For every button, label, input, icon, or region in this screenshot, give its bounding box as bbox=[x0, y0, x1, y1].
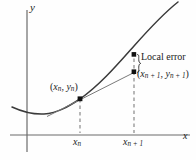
y-axis-label: y bbox=[30, 2, 35, 13]
tick-xn-sub: n bbox=[77, 140, 81, 148]
local-error-label: Local error bbox=[141, 52, 186, 62]
x-axis-label: x bbox=[183, 131, 187, 141]
pn1-x-sub: n + 1 bbox=[145, 72, 161, 80]
marker-point-n-plus-1 bbox=[132, 69, 137, 74]
annotation-point-n: (xn, yn) bbox=[50, 82, 78, 93]
paren-close: ) bbox=[186, 68, 189, 79]
annotation-point-n-plus-1: (xn + 1, yn + 1) bbox=[137, 69, 189, 80]
paren-close: ) bbox=[74, 81, 77, 92]
tick-xn1-sub: n + 1 bbox=[127, 140, 143, 148]
tangent-line bbox=[47, 72, 136, 117]
pn1-y-sub: n + 1 bbox=[170, 72, 186, 80]
local-error-diagram: y x xn xn + 1 (xn, yn) (xn + 1, yn + 1) … bbox=[0, 0, 196, 160]
marker-exact-value bbox=[132, 52, 137, 57]
tick-label-xn: xn bbox=[73, 137, 81, 148]
marker-point-n bbox=[78, 96, 83, 101]
tick-label-xn1: xn + 1 bbox=[123, 137, 143, 148]
